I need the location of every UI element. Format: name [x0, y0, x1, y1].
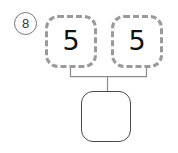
worksheet-canvas: 8 5 5	[0, 0, 178, 153]
whole-answer-box[interactable]	[81, 91, 131, 142]
